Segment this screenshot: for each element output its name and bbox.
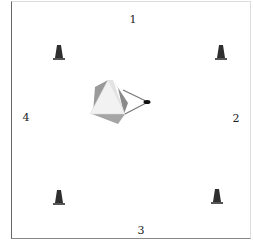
cone-icon (215, 45, 227, 60)
cone-icon (53, 45, 65, 60)
label-2: 2 (233, 113, 240, 124)
cone-icon (53, 190, 65, 205)
label-1: 1 (130, 14, 137, 25)
pyramid-icon (90, 80, 128, 124)
label-4: 4 (23, 112, 30, 123)
cone-icon (211, 189, 223, 204)
scene (0, 0, 253, 241)
label-3: 3 (138, 225, 145, 236)
pointer-dot-icon (144, 100, 151, 104)
